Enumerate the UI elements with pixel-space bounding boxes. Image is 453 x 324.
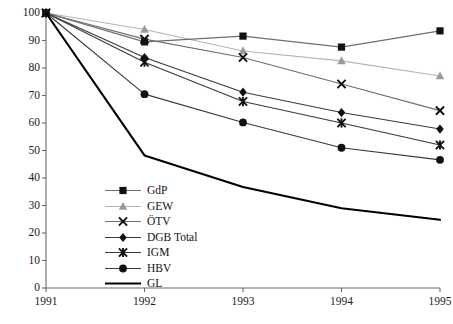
legend-label: ÖTV (147, 216, 171, 228)
legend-item-gew[interactable]: GEW (104, 199, 197, 215)
legend-label: GL (147, 278, 162, 290)
plot-area (0, 0, 453, 324)
series-gdp (42, 9, 443, 50)
y-axis-tick-70: 70 (6, 90, 40, 102)
chart-legend: GdPGEWÖTVDGB TotalIGMHBVGL (104, 183, 197, 292)
series-dgb-total (42, 8, 444, 133)
legend-item-gl[interactable]: GL (104, 276, 197, 292)
y-axis-tick-10: 10 (6, 255, 40, 267)
legend-marker-star-icon (104, 245, 142, 260)
legend-item-hbv[interactable]: HBV (104, 261, 197, 277)
y-axis-tick-50: 50 (6, 145, 40, 157)
legend-marker-cross-icon (104, 214, 142, 229)
x-axis-tick-1994: 1994 (312, 296, 372, 308)
y-axis-tick-80: 80 (6, 62, 40, 74)
legend-marker-diamond-icon (104, 230, 142, 245)
legend-label: GEW (147, 201, 173, 213)
legend-label: IGM (147, 247, 169, 259)
legend-item-igm[interactable]: IGM (104, 245, 197, 261)
legend-item-gdp[interactable]: GdP (104, 183, 197, 199)
series-gew (42, 8, 444, 79)
legend-item-dgb-total[interactable]: DGB Total (104, 230, 197, 246)
x-axis-tick-1993: 1993 (213, 296, 273, 308)
y-axis-tick-60: 60 (6, 117, 40, 129)
legend-marker-circle-icon (104, 261, 142, 276)
y-axis-tick-20: 20 (6, 227, 40, 239)
x-axis-tick-1995: 1995 (410, 296, 453, 308)
legend-marker-triangle-icon (104, 199, 142, 214)
legend-marker-square-icon (104, 183, 142, 198)
legend-label: DGB Total (147, 232, 197, 244)
y-axis-tick-90: 90 (6, 35, 40, 47)
y-axis-tick-100: 100 (6, 7, 40, 19)
y-axis-tick-30: 30 (6, 200, 40, 212)
x-axis-tick-1991: 1991 (16, 296, 76, 308)
legend-label: HBV (147, 263, 171, 275)
legend-item-ötv[interactable]: ÖTV (104, 214, 197, 230)
x-axis-tick-1992: 1992 (115, 296, 175, 308)
series-hbv (42, 9, 444, 164)
y-axis-tick-0: 0 (6, 282, 40, 294)
line-chart: 0102030405060708090100 19911992199319941… (0, 0, 453, 324)
legend-label: GdP (147, 185, 167, 197)
y-axis-tick-40: 40 (6, 172, 40, 184)
legend-marker-none-icon (104, 276, 142, 291)
